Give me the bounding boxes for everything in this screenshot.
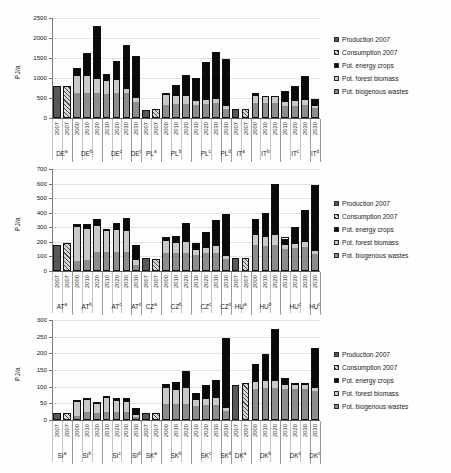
legend-item-forest_biomass[interactable]: Pot. forest biomass [334, 387, 408, 400]
bar-segment-energy_crops [223, 215, 229, 256]
x-year-label: 2007 [64, 275, 70, 301]
x-year-label: 2020 [203, 424, 209, 450]
bar-segment-energy_crops [312, 349, 318, 388]
x-year-label: 2030 [123, 122, 129, 148]
x-group-label: ITb [249, 149, 281, 157]
bar [242, 109, 250, 118]
x-year-label: 2020 [183, 424, 189, 450]
y-tick-label: 0 [20, 417, 47, 423]
x-year-label: 2007 [153, 122, 159, 148]
x-year-label: 2020 [292, 275, 298, 301]
legend-item-production_2007[interactable]: Production 2007 [334, 348, 408, 361]
legend-item-forest_biomass[interactable]: Pot. forest biomass [334, 236, 408, 249]
legend-item-consumption_2007[interactable]: Consumption 2007 [334, 46, 408, 59]
x-year-label: 2007 [233, 122, 239, 148]
x-year-label: 2020 [203, 122, 209, 148]
x-year-label: 2030 [223, 275, 229, 301]
bar-segment-biogenous_wastes [114, 252, 120, 270]
x-year-label: 2030 [302, 275, 308, 301]
legend-item-energy_crops[interactable]: Pot. energy crops [334, 59, 408, 72]
bar-segment-consumption_2007 [153, 414, 159, 419]
bar-segment-biogenous_wastes [263, 388, 269, 419]
legend-item-biogenous_wastes[interactable]: Pot. biogenous wastes [334, 400, 408, 413]
y-tick-label: 0 [20, 268, 47, 274]
bar-segment-biogenous_wastes [263, 246, 269, 270]
legend-item-forest_biomass[interactable]: Pot. forest biomass [334, 72, 408, 85]
legend-item-energy_crops[interactable]: Pot. energy crops [334, 223, 408, 236]
x-year-label: 2010 [84, 424, 90, 450]
x-year-label: 2010 [282, 424, 288, 450]
bar [212, 220, 220, 271]
bar-segment-biogenous_wastes [94, 93, 100, 117]
bar-segment-energy_crops [302, 77, 308, 100]
bar-segment-forest_biomass [114, 401, 120, 412]
x-year-label: 2010 [282, 275, 288, 301]
bar-segment-biogenous_wastes [74, 416, 80, 419]
y-tick-label: 400 [20, 210, 47, 216]
figure-page: PJ/a050010001500200025002007200720002010… [0, 0, 451, 473]
x-year-label: 2010 [193, 122, 199, 148]
legend-swatch-energy_crops [334, 378, 339, 383]
x-year-label: 2010 [104, 424, 110, 450]
legend-label-biogenous_wastes: Pot. biogenous wastes [342, 88, 408, 95]
x-year-label: 2020 [114, 122, 120, 148]
x-group-label: CZb [160, 302, 192, 310]
bar [132, 56, 140, 118]
legend-item-consumption_2007[interactable]: Consumption 2007 [334, 210, 408, 223]
bar [162, 384, 170, 420]
gridline [52, 18, 320, 19]
bar-segment-energy_crops [114, 62, 120, 80]
chart-panel-1: PJ/a050010001500200025002007200720002010… [0, 0, 451, 163]
x-year-label: 2020 [272, 424, 278, 450]
bar-segment-forest_biomass [124, 231, 130, 252]
x-group-label: ITd [299, 149, 331, 157]
x-year-label: 2007 [243, 275, 249, 301]
legend-item-production_2007[interactable]: Production 2007 [334, 197, 408, 210]
bar-segment-production_2007 [233, 386, 239, 419]
legend-item-energy_crops[interactable]: Pot. energy crops [334, 374, 408, 387]
bar [271, 184, 279, 271]
legend-item-consumption_2007[interactable]: Consumption 2007 [334, 361, 408, 374]
x-group-label: SIb [71, 451, 103, 459]
bar [301, 383, 309, 420]
legend-item-biogenous_wastes[interactable]: Pot. biogenous wastes [334, 85, 408, 98]
bar [63, 86, 71, 118]
bar-segment-biogenous_wastes [253, 245, 259, 270]
bar-segment-biogenous_wastes [104, 412, 110, 419]
x-year-label: 2030 [213, 122, 219, 148]
bar-segment-forest_biomass [173, 96, 179, 104]
bar-segment-energy_crops [193, 79, 199, 101]
x-year-label: 2010 [104, 122, 110, 148]
bar-segment-energy_crops [292, 87, 298, 101]
gridline [52, 184, 320, 185]
legend-label-biogenous_wastes: Pot. biogenous wastes [342, 403, 408, 410]
gridline [52, 320, 320, 321]
bar-segment-production_2007 [143, 259, 149, 270]
bar [73, 400, 81, 420]
legend-label-forest_biomass: Pot. forest biomass [342, 390, 398, 397]
gridline [52, 213, 320, 214]
bar-segment-forest_biomass [74, 76, 80, 93]
legend-swatch-energy_crops [334, 227, 339, 232]
bar-segment-biogenous_wastes [74, 261, 80, 270]
legend-swatch-production_2007 [334, 352, 339, 357]
bar-segment-consumption_2007 [153, 110, 159, 117]
legend-label-consumption_2007: Consumption 2007 [342, 49, 397, 56]
bar [93, 219, 101, 271]
gridline [52, 337, 320, 338]
x-year-label: 2010 [84, 122, 90, 148]
x-year-label: 2030 [223, 122, 229, 148]
bar-segment-energy_crops [312, 186, 318, 251]
y-tick-label: 100 [20, 253, 47, 259]
x-year-label: 2020 [183, 275, 189, 301]
bar-segment-biogenous_wastes [183, 104, 189, 117]
bar [242, 258, 250, 271]
bar-segment-forest_biomass [94, 404, 100, 412]
bar-segment-energy_crops [124, 46, 130, 89]
plot-area-3: PJ/a050100150200250300200720072000201020… [0, 310, 451, 465]
bar-segment-energy_crops [203, 386, 209, 399]
bar-segment-biogenous_wastes [133, 102, 139, 117]
bar-segment-biogenous_wastes [272, 103, 278, 117]
legend-item-production_2007[interactable]: Production 2007 [334, 33, 408, 46]
legend-item-biogenous_wastes[interactable]: Pot. biogenous wastes [334, 249, 408, 262]
